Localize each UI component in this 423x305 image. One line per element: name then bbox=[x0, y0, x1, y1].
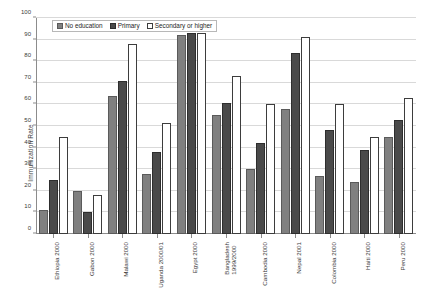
legend-swatch-icon-primary bbox=[110, 23, 116, 29]
bar-group bbox=[36, 18, 71, 234]
x-axis-label-line: Bangladesh bbox=[223, 242, 230, 275]
bar bbox=[83, 212, 92, 234]
x-tick-mark bbox=[261, 234, 262, 238]
x-axis-label: Gabon 2000 bbox=[88, 242, 95, 276]
x-tick-mark bbox=[53, 234, 54, 238]
x-axis-label-line: Peru 2000 bbox=[399, 242, 406, 271]
legend-item-no-education: No education bbox=[57, 23, 103, 29]
bar bbox=[325, 130, 334, 234]
x-axis-label: Bangladesh1999/2000 bbox=[223, 242, 237, 275]
x-axis-label: Nepal 2001 bbox=[295, 242, 302, 274]
x-axis-label: Peru 2000 bbox=[399, 242, 406, 271]
bar bbox=[256, 143, 265, 234]
x-label-cell: Nepal 2001 bbox=[278, 240, 313, 304]
bar bbox=[246, 169, 255, 234]
bar bbox=[266, 104, 275, 234]
bar bbox=[39, 210, 48, 234]
x-axis-label-line: Colombia 2000 bbox=[330, 242, 337, 284]
x-axis-label-line: Uganda 2000/01 bbox=[157, 242, 164, 288]
bar bbox=[281, 109, 290, 234]
bar bbox=[162, 123, 171, 234]
y-tick-label-60: 60 bbox=[24, 95, 31, 101]
legend-swatch-icon-no-education bbox=[57, 23, 63, 29]
legend-item-primary: Primary bbox=[110, 23, 140, 29]
bar-group bbox=[243, 18, 278, 234]
bar bbox=[142, 174, 151, 234]
y-tick-label-50: 50 bbox=[24, 117, 31, 123]
x-axis-label: Ethiopia 2000 bbox=[53, 242, 60, 280]
x-label-cell: Malawi 2000 bbox=[105, 240, 140, 304]
x-axis-label: Cambodia 2000 bbox=[261, 242, 268, 286]
y-tick-label-100: 100 bbox=[21, 9, 31, 15]
x-tick-mark bbox=[157, 234, 158, 238]
y-tick-label-20: 20 bbox=[24, 182, 31, 188]
x-label-cell: Ethiopia 2000 bbox=[36, 240, 71, 304]
chart-legend: No education Primary Secondary or higher bbox=[52, 20, 217, 32]
x-axis-label-line: 1999/2000 bbox=[230, 242, 237, 275]
bar bbox=[394, 120, 403, 234]
x-label-cell: Gabon 2000 bbox=[71, 240, 106, 304]
bar-group bbox=[381, 18, 416, 234]
y-tick-label-30: 30 bbox=[24, 160, 31, 166]
bar bbox=[291, 53, 300, 234]
x-axis-label-line: Cambodia 2000 bbox=[261, 242, 268, 286]
bar bbox=[108, 96, 117, 234]
bar bbox=[118, 81, 127, 234]
x-axis-label-line: Malawi 2000 bbox=[122, 242, 129, 277]
legend-label-primary: Primary bbox=[118, 23, 140, 29]
y-tick-label-10: 10 bbox=[24, 203, 31, 209]
bar-group bbox=[105, 18, 140, 234]
x-axis-label-line: Egypt 2000 bbox=[191, 242, 198, 273]
x-tick-mark bbox=[226, 234, 227, 238]
x-axis-label-line: Haiti 2000 bbox=[364, 242, 371, 270]
y-axis-tick-labels: 0102030405060708090100 bbox=[0, 18, 36, 234]
x-axis-label: Egypt 2000 bbox=[191, 242, 198, 273]
x-axis-label: Uganda 2000/01 bbox=[157, 242, 164, 288]
bar bbox=[360, 150, 369, 234]
bar bbox=[315, 176, 324, 234]
bar bbox=[177, 35, 186, 234]
bar bbox=[128, 44, 137, 234]
bar bbox=[222, 103, 231, 234]
legend-swatch-icon-secondary-or-higher bbox=[147, 23, 153, 29]
bar bbox=[301, 37, 310, 234]
x-label-cell: Peru 2000 bbox=[381, 240, 416, 304]
bar bbox=[370, 137, 379, 234]
immunization-rate-bar-chart: Immunization Rate 0102030405060708090100… bbox=[0, 0, 423, 305]
legend-item-secondary-or-higher: Secondary or higher bbox=[147, 23, 213, 29]
bar-group bbox=[174, 18, 209, 234]
x-axis-label: Colombia 2000 bbox=[330, 242, 337, 284]
y-tick-label-0: 0 bbox=[28, 225, 31, 231]
bar bbox=[232, 76, 241, 234]
bar bbox=[212, 115, 221, 234]
bar-group bbox=[312, 18, 347, 234]
y-tick-label-90: 90 bbox=[24, 31, 31, 37]
bar-group bbox=[71, 18, 106, 234]
legend-label-no-education: No education bbox=[65, 23, 103, 29]
x-tick-mark bbox=[399, 234, 400, 238]
x-tick-mark bbox=[364, 234, 365, 238]
bar bbox=[59, 137, 68, 234]
x-tick-mark bbox=[191, 234, 192, 238]
x-tick-mark bbox=[330, 234, 331, 238]
bar-group bbox=[209, 18, 244, 234]
bar bbox=[197, 33, 206, 234]
y-tick-label-80: 80 bbox=[24, 52, 31, 58]
x-axis-label: Haiti 2000 bbox=[364, 242, 371, 270]
legend-label-secondary-or-higher: Secondary or higher bbox=[155, 23, 213, 29]
x-axis-label-line: Nepal 2001 bbox=[295, 242, 302, 274]
x-label-cell: Bangladesh1999/2000 bbox=[209, 240, 244, 304]
x-tick-mark bbox=[295, 234, 296, 238]
bar bbox=[384, 137, 393, 234]
x-label-cell: Colombia 2000 bbox=[312, 240, 347, 304]
bar bbox=[350, 182, 359, 234]
bar bbox=[404, 98, 413, 234]
bar-group bbox=[278, 18, 313, 234]
x-axis-label-line: Gabon 2000 bbox=[88, 242, 95, 276]
x-tick-mark bbox=[122, 234, 123, 238]
x-label-cell: Haiti 2000 bbox=[347, 240, 382, 304]
bar bbox=[187, 33, 196, 234]
bar-group bbox=[347, 18, 382, 234]
x-label-cell: Cambodia 2000 bbox=[243, 240, 278, 304]
y-tick-label-70: 70 bbox=[24, 74, 31, 80]
